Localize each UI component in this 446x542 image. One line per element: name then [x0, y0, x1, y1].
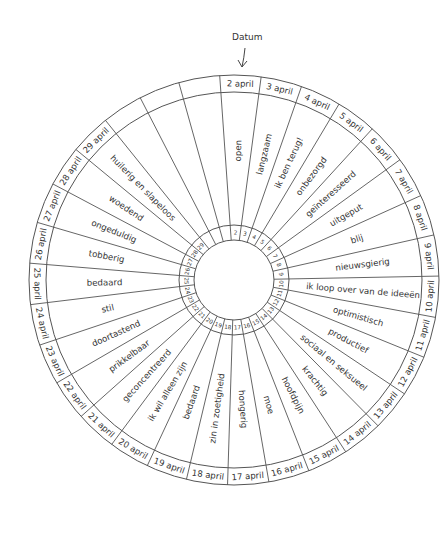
date-label: 27 april — [41, 189, 62, 223]
segment-divider — [274, 276, 439, 279]
day-number: 11 — [276, 289, 284, 298]
day-number: 24 — [184, 286, 192, 295]
day-number: 26 — [184, 267, 191, 276]
day-number: 2 — [234, 229, 238, 235]
segment-divider — [270, 196, 420, 264]
date-label: 29 april — [81, 125, 111, 155]
date-label: 23 april — [44, 344, 66, 378]
date-label: 8 april — [411, 203, 429, 232]
mood-label: hoofdpijn — [280, 375, 307, 415]
mood-label: hongerig — [237, 390, 250, 429]
day-number: 17 — [234, 324, 242, 331]
day-number: 10 — [278, 280, 285, 288]
date-label: 18 april — [191, 468, 224, 482]
segment-divider — [76, 149, 203, 254]
day-number: 9 — [278, 272, 284, 277]
date-label: 14 april — [341, 419, 372, 447]
day-number: 6 — [266, 245, 273, 252]
wheel-svg: Datum 2 april3 april4 april5 april6 apri… — [0, 0, 446, 542]
mood-label: langzaam — [254, 132, 273, 175]
date-label: 25 april — [32, 267, 43, 300]
segment-divider — [140, 98, 215, 245]
mood-label: bedaard — [181, 384, 202, 421]
segment-divider — [255, 104, 340, 246]
date-label: 3 april — [265, 81, 294, 97]
mood-label: open — [233, 140, 244, 162]
mood-label: doortastend — [90, 318, 142, 349]
mood-label: krachtig — [300, 364, 330, 398]
day-number: 3 — [243, 230, 248, 237]
day-number: 4 — [251, 233, 257, 240]
date-label: 17 april — [231, 470, 264, 482]
mood-label: uitgeput — [328, 201, 365, 228]
mood-label: stil — [100, 302, 115, 315]
segment-divider — [271, 295, 424, 357]
datum-arrow-icon — [238, 48, 247, 67]
mood-label: moe — [261, 394, 276, 415]
date-label: 2 april — [227, 78, 254, 89]
segment-divider — [53, 184, 199, 261]
datum-label: Datum — [232, 32, 262, 42]
mood-label: nieuwsgierig — [335, 256, 390, 272]
date-label: 19 april — [152, 455, 186, 475]
segment-divider — [228, 320, 233, 485]
mood-label: ik loop over van de ideeën — [306, 281, 421, 300]
day-number: 18 — [224, 324, 232, 331]
mood-label: productief — [327, 326, 371, 356]
date-label: 11 april — [413, 318, 432, 352]
date-label: 12 april — [396, 355, 420, 388]
mood-label: bedaard — [87, 277, 123, 288]
date-label: 22 april — [61, 379, 88, 411]
day-number: 5 — [259, 238, 266, 245]
date-label: 4 april — [303, 92, 332, 112]
date-label: 9 april — [422, 242, 435, 270]
mood-label: tobberig — [88, 248, 125, 264]
date-label: 7 april — [393, 167, 415, 195]
mood-label: woedend — [107, 193, 145, 223]
segment-divider — [220, 75, 232, 240]
mood-wedges: openlangzaamik ben terug!onbezorgdgeïnte… — [87, 132, 421, 444]
segment-divider — [179, 83, 223, 242]
mood-label: blij — [349, 232, 364, 245]
segment-divider — [81, 307, 204, 417]
segment-divider — [262, 308, 378, 425]
day-number: 8 — [276, 262, 283, 268]
mood-label: zin in zoetigheid — [207, 373, 226, 444]
day-number: 12 — [272, 298, 281, 307]
mood-label: optimistisch — [332, 304, 385, 328]
mood-label: ongeduldig — [90, 218, 138, 245]
date-label: 5 april — [337, 110, 365, 134]
day-number: 19 — [214, 321, 223, 329]
day-number: 7 — [272, 253, 279, 259]
day-number: 25 — [183, 277, 189, 285]
date-label: 6 april — [368, 136, 393, 163]
date-label: 10 april — [424, 280, 437, 313]
date-label: 15 april — [307, 443, 340, 467]
date-label: 16 april — [270, 460, 304, 478]
date-label: 20 april — [117, 436, 150, 461]
date-label: 28 april — [57, 155, 83, 187]
date-label: 13 april — [371, 389, 399, 420]
segment-divider — [30, 263, 194, 277]
mood-label: onbezorgd — [294, 155, 329, 197]
date-label: 26 april — [33, 227, 49, 261]
center-hole — [194, 240, 274, 320]
date-label: 21 april — [86, 410, 117, 439]
segment-divider — [261, 129, 372, 251]
day-number: 16 — [243, 322, 252, 330]
